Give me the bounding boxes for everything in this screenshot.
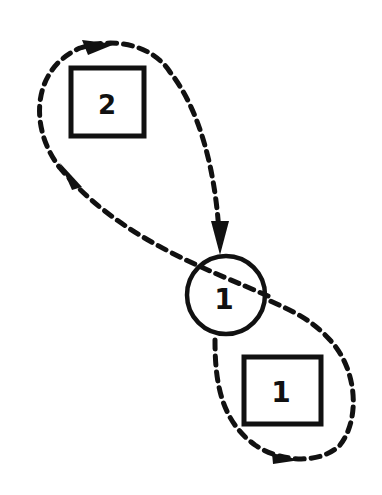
node-square-1-label: 1 [271, 376, 290, 409]
diagram-canvas: 2 1 1 [0, 0, 382, 495]
arrowhead-down-icon [211, 221, 229, 255]
arrowhead-left-icon [60, 163, 82, 190]
node-circle-1-label: 1 [214, 283, 233, 316]
node-square-2-label: 2 [98, 90, 116, 120]
